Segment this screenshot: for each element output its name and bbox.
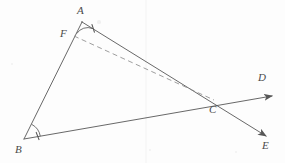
segment-BD-ray xyxy=(24,96,272,139)
point-label-C: C xyxy=(209,104,216,115)
point-label-E: E xyxy=(262,140,269,151)
vertex-dot-A xyxy=(81,21,82,22)
segment-AE-ray xyxy=(82,22,266,136)
point-label-F: F xyxy=(60,28,67,39)
point-label-B: B xyxy=(15,144,22,155)
angle-mark-B-tick xyxy=(36,132,39,139)
geometry-figure-canvas: A F B C D E xyxy=(0,0,285,163)
geometry-figure-svg xyxy=(0,0,285,163)
angle-mark-B-arc xyxy=(32,124,41,136)
segment-AB xyxy=(24,22,82,139)
segment-FC-dashed xyxy=(74,36,214,100)
point-label-D: D xyxy=(258,72,266,83)
point-label-A: A xyxy=(77,5,84,16)
